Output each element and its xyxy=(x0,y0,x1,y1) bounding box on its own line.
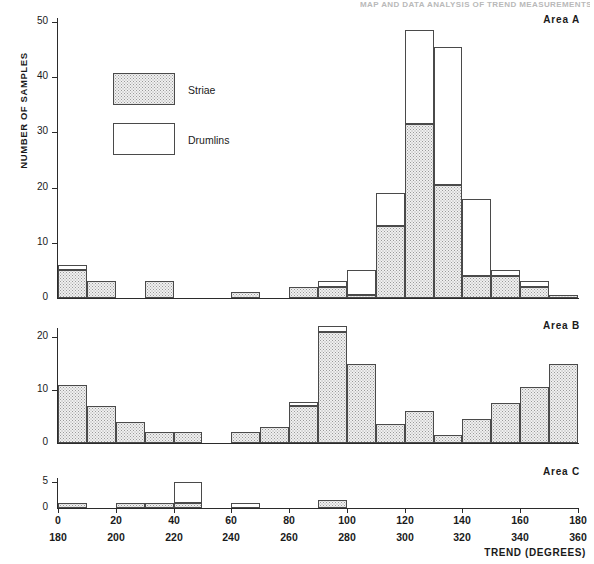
legend: Striae Drumlins xyxy=(0,0,260,180)
bar-striae xyxy=(87,406,116,443)
bar-striae xyxy=(434,435,463,443)
y-axis-tick-label: 20 xyxy=(22,330,48,341)
bar-striae xyxy=(549,295,578,298)
x-axis-tick-label-secondary: 220 xyxy=(165,531,183,543)
bar-striae xyxy=(87,281,116,298)
x-axis-tick-label-secondary: 180 xyxy=(49,531,67,543)
bar-drumlins xyxy=(231,503,260,508)
panel-area-b: Area B 01020 xyxy=(0,310,594,460)
x-axis-tick-row-secondary: 180200220240260280300320340360 xyxy=(0,531,594,545)
x-axis-line xyxy=(57,443,579,444)
x-axis-tick-label-primary: 40 xyxy=(168,514,180,526)
bar-striae xyxy=(289,406,318,443)
x-axis-tick xyxy=(289,508,290,513)
bar-striae xyxy=(116,503,145,508)
x-axis-tick-row-primary: 020406080100120140160180 xyxy=(0,514,594,528)
x-axis-tick xyxy=(116,508,117,513)
y-axis-tick-label: 10 xyxy=(22,383,48,394)
x-axis-tick xyxy=(347,508,348,513)
bar-striae xyxy=(174,503,203,508)
legend-swatch-striae xyxy=(113,73,175,105)
bar-drumlins xyxy=(318,326,347,331)
x-axis-tick-label-secondary: 200 xyxy=(107,531,125,543)
bar-striae xyxy=(116,422,145,443)
bar-striae xyxy=(145,281,174,298)
x-axis-tick xyxy=(231,508,232,513)
x-axis-tick xyxy=(578,508,579,513)
legend-label-striae: Striae xyxy=(188,84,215,96)
x-axis-tick-label-primary: 20 xyxy=(110,514,122,526)
bar-striae xyxy=(145,432,174,443)
y-axis-tick-label: 5 xyxy=(22,475,48,486)
bar-striae xyxy=(491,403,520,443)
y-axis-tick-label: 0 xyxy=(22,291,48,302)
y-axis-tick xyxy=(52,188,57,189)
bar-striae xyxy=(462,276,491,298)
x-axis-line xyxy=(57,508,579,509)
bar-striae xyxy=(491,276,520,298)
bar-drumlins xyxy=(520,281,549,287)
x-axis-tick xyxy=(174,508,175,513)
x-axis-tick-label-secondary: 280 xyxy=(338,531,356,543)
bar-drumlins xyxy=(462,199,491,276)
bar-striae xyxy=(58,503,87,508)
x-axis-tick-label-secondary: 340 xyxy=(511,531,529,543)
bar-striae xyxy=(318,500,347,508)
bar-striae xyxy=(231,292,260,298)
bar-striae xyxy=(405,411,434,443)
bar-drumlins xyxy=(347,270,376,295)
y-axis-tick xyxy=(52,482,57,483)
y-axis-tick xyxy=(52,337,57,338)
y-axis-tick xyxy=(52,243,57,244)
bar-drumlins xyxy=(289,402,318,406)
y-axis-tick-label: 10 xyxy=(22,236,48,247)
bar-striae xyxy=(231,432,260,443)
bar-striae xyxy=(549,364,578,444)
bar-drumlins xyxy=(491,270,520,276)
bar-striae xyxy=(347,295,376,298)
x-axis-tick-label-primary: 100 xyxy=(338,514,356,526)
bar-drumlins xyxy=(376,193,405,226)
histogram-figure: MAP AND DATA ANALYSIS OF TREND MEASUREME… xyxy=(0,0,594,564)
bar-striae xyxy=(462,419,491,443)
bar-striae xyxy=(318,332,347,443)
y-axis-tick-label: 0 xyxy=(22,501,48,512)
bar-striae xyxy=(520,287,549,298)
bar-striae xyxy=(145,503,174,508)
x-axis-tick xyxy=(462,508,463,513)
bar-striae xyxy=(405,124,434,298)
x-axis-tick-label-primary: 120 xyxy=(396,514,414,526)
x-axis-tick xyxy=(520,508,521,513)
legend-swatch-drumlins xyxy=(113,123,175,155)
x-axis-tick xyxy=(405,508,406,513)
x-axis-tick-label-primary: 140 xyxy=(453,514,471,526)
bar-drumlins xyxy=(405,30,434,124)
bar-striae xyxy=(520,387,549,443)
x-axis-tick-label-secondary: 320 xyxy=(453,531,471,543)
x-axis-line xyxy=(57,298,579,299)
legend-label-drumlins: Drumlins xyxy=(188,134,229,146)
x-axis-label: TREND (DEGREES) xyxy=(484,547,586,558)
bar-drumlins xyxy=(434,47,463,185)
x-axis-tick xyxy=(58,508,59,513)
bar-striae xyxy=(174,432,203,443)
x-axis-tick-label-secondary: 260 xyxy=(280,531,298,543)
bar-striae xyxy=(434,185,463,298)
x-axis-tick-label-primary: 60 xyxy=(225,514,237,526)
bar-drumlins xyxy=(318,281,347,287)
bar-striae xyxy=(58,270,87,298)
bar-striae xyxy=(376,424,405,443)
x-axis-tick-label-secondary: 300 xyxy=(396,531,414,543)
x-axis-tick-label-primary: 0 xyxy=(55,514,61,526)
y-axis-tick-label: 20 xyxy=(22,181,48,192)
bar-striae xyxy=(318,287,347,298)
bar-striae xyxy=(347,364,376,444)
x-axis-tick-label-secondary: 360 xyxy=(569,531,587,543)
x-axis-tick-label-primary: 180 xyxy=(569,514,587,526)
panel-area-c: Area C 05 xyxy=(0,460,594,520)
bar-striae xyxy=(260,427,289,443)
bar-drumlins xyxy=(174,482,203,503)
x-axis-tick-label-primary: 160 xyxy=(511,514,529,526)
bar-striae xyxy=(289,287,318,298)
y-axis-tick xyxy=(52,390,57,391)
